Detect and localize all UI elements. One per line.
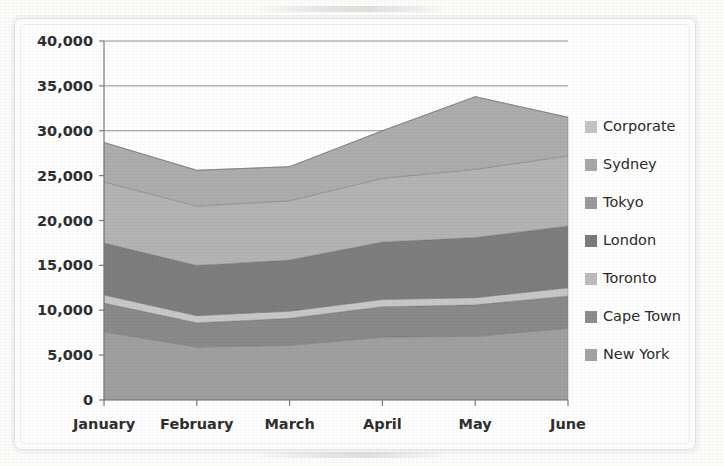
y-axis-tick-labels: 05,00010,00015,00020,00025,00030,00035,0… <box>37 33 93 408</box>
x-tick-label-june: June <box>549 416 586 432</box>
chart-canvas[interactable]: 05,00010,00015,00020,00025,00030,00035,0… <box>0 0 724 466</box>
legend-swatch-corporate <box>585 121 597 133</box>
legend-label-london[interactable]: London <box>603 232 656 248</box>
y-tick-label: 40,000 <box>37 33 93 49</box>
legend-swatch-cape-town <box>585 311 597 323</box>
legend-label-cape-town[interactable]: Cape Town <box>603 308 681 324</box>
legend-label-corporate[interactable]: Corporate <box>603 118 676 134</box>
legend-swatch-sydney <box>585 159 597 171</box>
y-tick-label: 15,000 <box>37 257 93 273</box>
y-tick-label: 30,000 <box>37 123 93 139</box>
legend-label-tokyo[interactable]: Tokyo <box>602 194 644 210</box>
x-axis-tick-labels: JanuaryFebruaryMarchAprilMayJune <box>72 416 586 432</box>
x-tick-label-april: April <box>363 416 402 432</box>
legend-swatch-new-york <box>585 349 597 361</box>
legend-label-new-york[interactable]: New York <box>603 346 670 362</box>
legend-label-sydney[interactable]: Sydney <box>603 156 657 172</box>
scanned-page: 05,00010,00015,00020,00025,00030,00035,0… <box>0 0 724 466</box>
y-tick-label: 5,000 <box>47 347 93 363</box>
y-tick-label: 20,000 <box>37 213 93 229</box>
y-tick-label: 10,000 <box>37 302 93 318</box>
y-tick-label: 35,000 <box>37 78 93 94</box>
y-tick-label: 0 <box>83 392 93 408</box>
x-tick-label-march: March <box>264 416 314 432</box>
legend-swatch-toronto <box>585 273 597 285</box>
legend-swatch-london <box>585 235 597 247</box>
legend-label-toronto[interactable]: Toronto <box>602 270 657 286</box>
stacked-area-chart[interactable]: 05,00010,00015,00020,00025,00030,00035,0… <box>0 0 724 466</box>
y-tick-label: 25,000 <box>37 168 93 184</box>
legend-swatch-tokyo <box>585 197 597 209</box>
x-tick-label-january: January <box>72 416 136 432</box>
x-tick-label-may: May <box>459 416 493 432</box>
x-tick-label-february: February <box>160 416 234 432</box>
chart-legend[interactable]: CorporateSydneyTokyoLondonTorontoCape To… <box>585 118 681 362</box>
